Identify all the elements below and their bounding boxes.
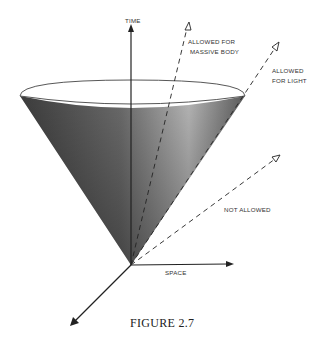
arrow-right-icon bbox=[226, 261, 234, 267]
massive-body-label-line1: ALLOWED FOR bbox=[188, 38, 236, 45]
massive-body-label-line2: MASSIVE BODY bbox=[190, 48, 239, 55]
not-allowed-label: NOT ALLOWED bbox=[224, 206, 271, 213]
depth-axis bbox=[70, 265, 131, 326]
light-cone bbox=[20, 80, 245, 265]
space-axis bbox=[131, 261, 234, 267]
light-label-line1: ALLOWED bbox=[272, 67, 304, 74]
light-label-line2: FOR LIGHT bbox=[272, 77, 307, 84]
open-arrow-icon bbox=[272, 42, 279, 51]
open-arrow-icon bbox=[272, 155, 280, 162]
light-cone-diagram: TIME ALLOWED FOR MASSIVE BODY ALLOWED FO… bbox=[0, 0, 318, 347]
cone-rim bbox=[20, 80, 245, 104]
time-axis-label: TIME bbox=[125, 17, 141, 24]
arrow-up-icon bbox=[128, 24, 134, 32]
open-arrow-icon bbox=[185, 22, 191, 30]
space-axis-label: SPACE bbox=[165, 269, 187, 276]
figure-caption: FIGURE 2.7 bbox=[130, 316, 194, 330]
